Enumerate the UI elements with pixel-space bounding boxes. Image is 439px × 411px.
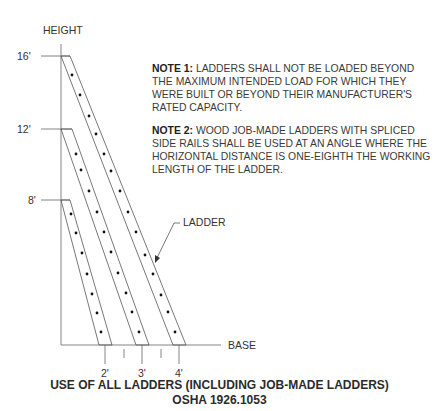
ladder-callout-label: LADDER [183,217,226,228]
caption-title: USE OF ALL LADDERS (INCLUDING JOB-MADE L… [0,379,439,391]
tick-label-12ft: 12' [17,124,31,135]
note-1-heading: NOTE 1: [152,63,193,74]
tick-label-16ft: 16' [17,51,31,62]
caption-standard: OSHA 1926.1053 [0,394,439,406]
ladder-12ft [61,129,149,345]
ladder-callout-arrow [155,223,180,263]
note-2: NOTE 2: WOOD JOB-MADE LADDERS WITH SPLIC… [152,124,437,176]
ladder-8ft [61,200,112,345]
note-2-heading: NOTE 2: [152,125,193,136]
tick-label-3ft: 3' [138,368,146,379]
base-axis-label: BASE [228,340,256,351]
tick-label-2ft: 2' [101,368,109,379]
tick-label-4ft: 4' [175,368,183,379]
note-1: NOTE 1: LADDERS SHALL NOT BE LOADED BEYO… [152,62,437,114]
tick-label-8ft: 8' [28,195,36,206]
height-axis-label: HEIGHT [43,25,83,36]
note-2-text: WOOD JOB-MADE LADDERS WITH SPLICED SIDE … [152,125,430,175]
